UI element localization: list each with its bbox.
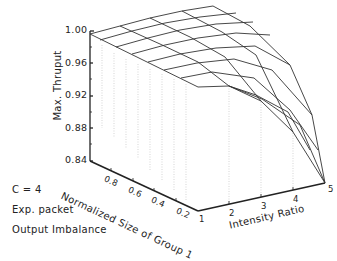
annotation-packet: Exp. packet xyxy=(12,204,74,215)
floor-axes xyxy=(90,161,325,211)
x-tick-2: 2 xyxy=(229,208,235,218)
surface-mesh xyxy=(90,6,325,183)
x-tick-3: 3 xyxy=(261,201,267,211)
z-tick-1.00: 1.00 xyxy=(65,24,87,35)
z-tick-0.96: 0.96 xyxy=(65,57,87,68)
z-tick-0.88: 0.88 xyxy=(65,122,87,133)
annotation-imbalance: Output Imbalance xyxy=(12,224,107,235)
z-axis xyxy=(90,31,94,161)
x-tick-4: 4 xyxy=(293,194,299,204)
z-tick-0.92: 0.92 xyxy=(65,89,87,100)
z-tick-0.84: 0.84 xyxy=(65,154,87,165)
annotation-c: C = 4 xyxy=(12,184,42,195)
z-axis-label: Max. Thruput xyxy=(52,50,63,120)
x-tick-1: 1 xyxy=(199,214,205,224)
x-tick-5: 5 xyxy=(328,184,334,194)
